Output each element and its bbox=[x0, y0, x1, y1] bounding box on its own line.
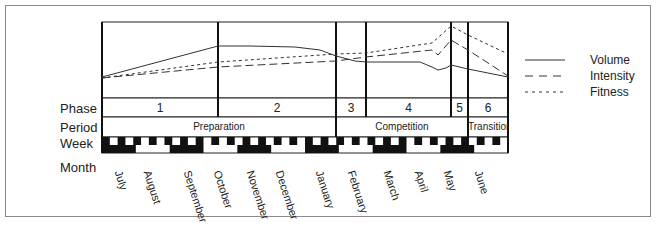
row-label-period: Period bbox=[60, 120, 98, 135]
period-transition: Transition bbox=[468, 121, 508, 132]
series-intensity bbox=[102, 40, 508, 78]
phase-4: 4 bbox=[366, 101, 451, 115]
phase-5: 5 bbox=[451, 101, 468, 115]
row-label-week: Week bbox=[60, 136, 93, 151]
period-competition: Competition bbox=[336, 121, 468, 132]
week-row bbox=[102, 137, 508, 153]
phase-2: 2 bbox=[218, 101, 336, 115]
legend-fitness: Fitness bbox=[590, 85, 629, 99]
row-label-phase: Phase bbox=[60, 101, 97, 116]
plot-area bbox=[102, 22, 508, 98]
series-fitness bbox=[102, 26, 508, 78]
phase-1: 1 bbox=[102, 101, 218, 115]
phase-6: 6 bbox=[468, 101, 508, 115]
legend-intensity: Intensity bbox=[590, 69, 635, 83]
legend-volume: Volume bbox=[590, 53, 630, 67]
row-label-month: Month bbox=[60, 160, 96, 175]
period-preparation: Preparation bbox=[102, 121, 336, 132]
phase-3: 3 bbox=[336, 101, 366, 115]
figure-caption-cropped bbox=[4, 222, 334, 232]
